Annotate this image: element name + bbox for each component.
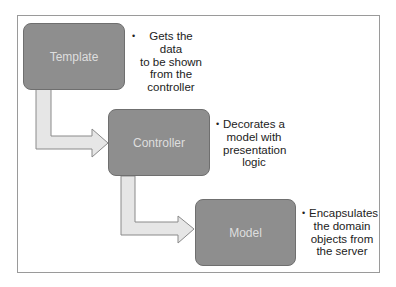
model-box: Model <box>195 199 296 266</box>
note-line: from the <box>139 68 203 81</box>
note-line: presentation <box>223 144 285 157</box>
note-line: logic <box>223 156 285 169</box>
template-box: Template <box>23 23 125 90</box>
bullet-icon: • <box>216 118 219 131</box>
bullet-icon: • <box>132 30 135 43</box>
template-label: Template <box>50 50 99 64</box>
arrow-template-to-controller <box>36 89 108 157</box>
arrow-controller-to-model <box>121 176 194 243</box>
model-label: Model <box>229 226 262 240</box>
note-line: controller <box>139 81 203 94</box>
controller-note: • Decorates a model with presentation lo… <box>223 118 285 169</box>
note-line: to be shown <box>139 56 203 69</box>
note-line: model with <box>223 131 285 144</box>
model-note: • Encapsulates the domain objects from t… <box>309 207 375 258</box>
note-line: objects from <box>309 233 375 246</box>
controller-box: Controller <box>108 109 210 176</box>
note-line: Encapsulates <box>309 207 375 220</box>
note-line: the server <box>309 245 375 258</box>
bullet-icon: • <box>302 207 305 220</box>
controller-label: Controller <box>133 136 185 150</box>
note-line: Decorates a <box>223 118 285 131</box>
note-line: Gets the data <box>139 30 203 56</box>
note-line: the domain <box>309 220 375 233</box>
template-note: • Gets the data to be shown from the con… <box>139 30 203 94</box>
